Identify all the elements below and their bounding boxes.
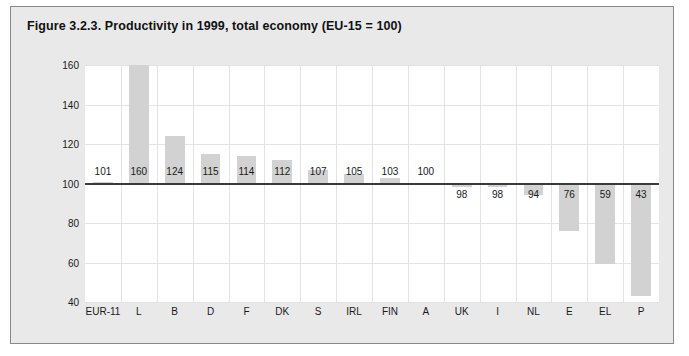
y-axis-tick-label: 160	[33, 60, 79, 71]
x-axis-category-label: DK	[264, 306, 300, 317]
gridline-horizontal	[85, 302, 659, 303]
bar-value-label: 107	[300, 166, 336, 177]
bar-value-label: 98	[444, 189, 480, 200]
bar-value-label: 103	[372, 166, 408, 177]
x-axis-category-label: NL	[516, 306, 552, 317]
figure-panel: Figure 3.2.3. Productivity in 1999, tota…	[10, 6, 674, 344]
bar	[631, 184, 651, 297]
page-title: Figure 3.2.3. Productivity in 1999, tota…	[27, 19, 402, 33]
x-axis-category-label: UK	[444, 306, 480, 317]
x-axis-category-label: I	[480, 306, 516, 317]
y-axis-tick-label: 80	[33, 218, 79, 229]
x-axis-category-label: IRL	[336, 306, 372, 317]
y-axis-tick-label: 120	[33, 139, 79, 150]
x-axis-category-label: B	[157, 306, 193, 317]
figure-root: Figure 3.2.3. Productivity in 1999, tota…	[0, 0, 689, 356]
y-axis-tick-label: 60	[33, 257, 79, 268]
x-axis-category-label: A	[408, 306, 444, 317]
x-axis-category-label: P	[623, 306, 659, 317]
x-axis-category-label: FIN	[372, 306, 408, 317]
bar-value-label: 98	[480, 189, 516, 200]
x-axis-category-label: S	[300, 306, 336, 317]
x-axis-category-label: EL	[587, 306, 623, 317]
y-axis-tick-label: 100	[33, 178, 79, 189]
plot-area: 101EUR-11160L124B115D114F112DK107S105IRL…	[85, 65, 659, 302]
bar-value-label: 114	[229, 166, 265, 177]
bar-value-label: 124	[157, 166, 193, 177]
x-axis-category-label: E	[551, 306, 587, 317]
bar-value-label: 112	[264, 166, 300, 177]
bar-value-label: 100	[408, 166, 444, 177]
x-axis-category-label: L	[121, 306, 157, 317]
bar-value-label: 105	[336, 166, 372, 177]
bar-value-label: 101	[85, 166, 121, 177]
bar-value-label: 115	[193, 166, 229, 177]
bar-value-label: 59	[587, 189, 623, 200]
y-axis-tick-label: 40	[33, 297, 79, 308]
y-axis-tick-label: 140	[33, 99, 79, 110]
y-axis: 406080100120140160	[27, 65, 79, 302]
bar-value-label: 43	[623, 189, 659, 200]
baseline-100	[85, 183, 659, 185]
x-axis-category-label: D	[193, 306, 229, 317]
x-axis-category-label: EUR-11	[85, 306, 121, 317]
bar-value-label: 76	[551, 189, 587, 200]
bar-value-label: 160	[121, 166, 157, 177]
x-axis-category-label: F	[229, 306, 265, 317]
bar-value-label: 94	[516, 189, 552, 200]
